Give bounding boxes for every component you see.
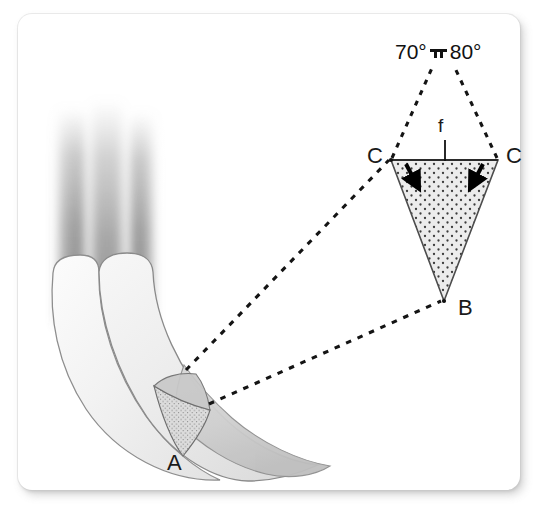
angle-left-value: 70°	[395, 40, 427, 64]
figure-root: 70° 80° f C C B A	[0, 0, 553, 517]
figure-canvas	[0, 0, 553, 517]
point-label-c-left: C	[367, 145, 383, 167]
leader-lines	[186, 160, 441, 404]
bracket-bar-icon	[430, 46, 447, 58]
force-label-f: f	[438, 116, 443, 135]
magnified-wedge-triangle	[391, 160, 498, 301]
leader-line-angle-right	[455, 68, 497, 158]
point-label-c-right: C	[506, 145, 522, 167]
angle-annotation: 70° 80°	[395, 40, 482, 64]
anchor-point-b	[442, 299, 446, 303]
angle-right-value: 80°	[450, 40, 482, 64]
leader-line-to-b	[209, 301, 441, 404]
anchor-point-c-left	[389, 158, 393, 162]
point-label-a: A	[167, 452, 182, 474]
leader-line-angle-left	[392, 68, 432, 158]
point-label-b: B	[458, 297, 473, 319]
